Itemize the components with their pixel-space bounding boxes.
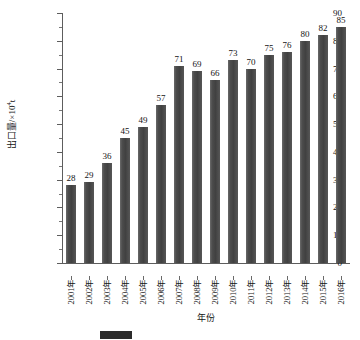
y-axis-title-unit: t bbox=[7, 100, 17, 103]
bar-slot: 80 bbox=[296, 13, 314, 263]
bar[interactable] bbox=[336, 27, 346, 263]
bar-slot: 28 bbox=[62, 13, 80, 263]
bar-series: 28293645495771696673707576808285 bbox=[62, 13, 350, 263]
bar[interactable] bbox=[246, 69, 256, 263]
legend-caption-row bbox=[62, 331, 360, 340]
y-axis-title: 出口量/×104t bbox=[5, 70, 18, 180]
bar[interactable] bbox=[192, 71, 202, 263]
bar-chart-figure: 出口量/×104t 0102030405060708090 2829364549… bbox=[0, 0, 360, 340]
bar-slot: 71 bbox=[170, 13, 188, 263]
bar-slot: 29 bbox=[80, 13, 98, 263]
bar[interactable] bbox=[264, 55, 274, 263]
bar[interactable] bbox=[156, 105, 166, 263]
x-axis-line bbox=[62, 263, 350, 264]
bar-slot: 57 bbox=[152, 13, 170, 263]
bar-slot: 82 bbox=[314, 13, 332, 263]
bar-value-label: 85 bbox=[326, 16, 356, 25]
bar[interactable] bbox=[210, 80, 220, 263]
bar[interactable] bbox=[318, 35, 328, 263]
plot-area: 0102030405060708090 28293645495771696673… bbox=[62, 13, 350, 263]
bar[interactable] bbox=[84, 182, 94, 263]
bar-slot: 49 bbox=[134, 13, 152, 263]
x-axis-title: 年份 bbox=[62, 311, 350, 324]
y-axis-title-main: 出口量/×10 bbox=[7, 106, 17, 150]
bar[interactable] bbox=[120, 138, 130, 263]
bar-slot: 36 bbox=[98, 13, 116, 263]
bar[interactable] bbox=[66, 185, 76, 263]
bar-slot: 85 bbox=[332, 13, 350, 263]
bar-slot: 73 bbox=[224, 13, 242, 263]
bar[interactable] bbox=[282, 52, 292, 263]
bar-slot: 75 bbox=[260, 13, 278, 263]
bar[interactable] bbox=[174, 66, 184, 263]
legend-swatch bbox=[100, 331, 132, 339]
y-axis-title-exponent: 4 bbox=[5, 102, 12, 105]
bar[interactable] bbox=[300, 41, 310, 263]
bar[interactable] bbox=[228, 60, 238, 263]
bar-slot: 45 bbox=[116, 13, 134, 263]
bar[interactable] bbox=[138, 127, 148, 263]
y-tick-major bbox=[57, 263, 62, 264]
bar-slot: 76 bbox=[278, 13, 296, 263]
bar-slot: 69 bbox=[188, 13, 206, 263]
bar[interactable] bbox=[102, 163, 112, 263]
